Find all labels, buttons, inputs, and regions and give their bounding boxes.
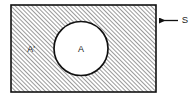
label-universal-set: S: [182, 14, 188, 25]
label-complement: A': [27, 44, 35, 54]
venn-diagram-figure: A' A S: [0, 0, 195, 99]
venn-diagram-canvas: A' A S: [0, 0, 195, 99]
label-set-a: A: [78, 44, 84, 54]
